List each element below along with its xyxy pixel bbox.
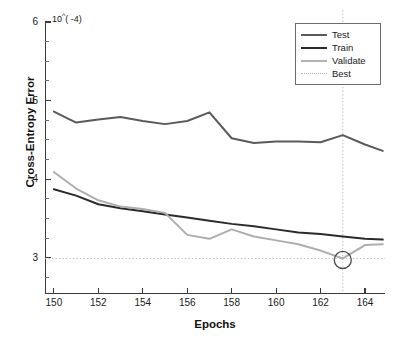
series-line-validate	[54, 172, 383, 258]
series-line-train	[54, 189, 383, 239]
legend-label: Train	[332, 41, 353, 54]
legend-item-train[interactable]: Train	[296, 41, 380, 54]
series-curves	[54, 112, 383, 259]
chart-legend: TestTrainValidateBest	[295, 23, 381, 85]
cross-entropy-error-chart: 10^( -4) 3456 150152154156158160162164 C…	[0, 0, 398, 345]
legend-label: Test	[332, 28, 349, 41]
series-line-test	[54, 112, 383, 151]
legend-label: Best	[332, 67, 351, 80]
legend-item-validate[interactable]: Validate	[296, 54, 380, 67]
legend-swatch-test	[301, 34, 327, 36]
legend-label: Validate	[332, 54, 366, 67]
legend-swatch-validate	[301, 60, 327, 62]
legend-swatch-best	[301, 73, 327, 74]
legend-item-best[interactable]: Best	[296, 67, 380, 80]
legend-swatch-train	[301, 47, 327, 49]
legend-item-test[interactable]: Test	[296, 28, 380, 41]
